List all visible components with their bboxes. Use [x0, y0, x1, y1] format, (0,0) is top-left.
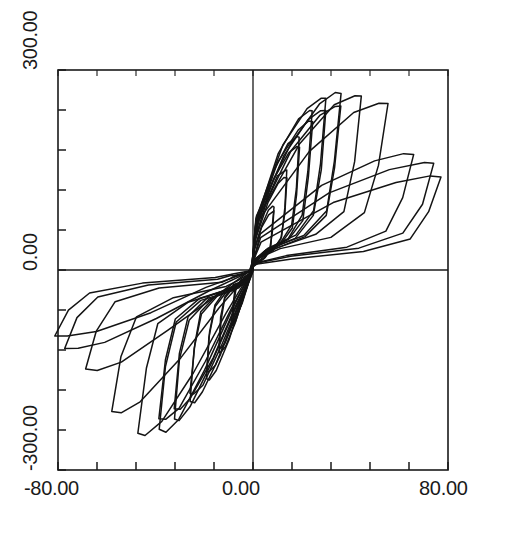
y-axis-zero-tick-label: 0.00	[20, 233, 40, 271]
y-axis-top-tick-label: 300.00	[20, 11, 40, 70]
plot-canvas	[0, 0, 515, 534]
x-axis-zero-tick-label: 0.00	[222, 478, 260, 498]
x-axis-left-tick-label: -80.00	[24, 478, 79, 498]
x-axis-right-tick-label: 80.00	[419, 478, 468, 498]
y-axis-bottom-tick-label: -300.00	[20, 405, 40, 471]
hysteresis-curves	[55, 93, 441, 436]
hysteresis-plot-figure: 300.00 0.00 -300.00 -80.00 0.00 80.00	[0, 0, 515, 534]
